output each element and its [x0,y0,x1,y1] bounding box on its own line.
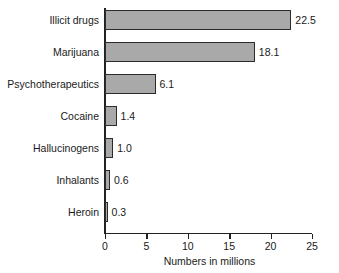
category-label: Heroin [68,201,99,223]
category-label: Cocaine [60,105,99,127]
bar-value-label: 1.4 [121,105,136,127]
bar-value-label: 0.6 [114,169,129,191]
tick-label: 20 [254,240,288,252]
value-axis-line [104,233,312,235]
tick-mark [312,234,313,239]
bar [105,202,108,222]
tick-mark [146,234,147,239]
tick-mark [188,234,189,239]
bar-row: Cocaine1.4 [0,105,339,127]
plot-area: Illicit drugs22.5Marijuana18.1Psychother… [0,0,339,273]
bar-value-label: 18.1 [259,41,279,63]
x-axis-title-text: Numbers in millions [164,255,256,267]
tick-mark [229,234,230,239]
bar-value-label: 1.0 [117,137,132,159]
bar-value-label: 0.3 [112,201,127,223]
bar [105,106,117,126]
tick-mark [105,234,106,239]
tick-label: 0 [88,240,122,252]
bar-row: Inhalants0.6 [0,169,339,191]
bar-chart: Illicit drugs22.5Marijuana18.1Psychother… [0,0,339,273]
tick-label: 15 [212,240,246,252]
tick-label: 25 [295,240,329,252]
category-label: Marijuana [53,41,99,63]
bar [105,170,110,190]
bar [105,42,255,62]
category-label: Hallucinogens [33,137,99,159]
category-label: Inhalants [56,169,99,191]
bar [105,138,113,158]
category-label: Illicit drugs [49,9,99,31]
bar [105,10,291,30]
bar-row: Hallucinogens1.0 [0,137,339,159]
bar-row: Heroin0.3 [0,201,339,223]
bar-row: Psychotherapeutics6.1 [0,73,339,95]
tick-label: 5 [129,240,163,252]
tick-mark [271,234,272,239]
bar [105,74,156,94]
bar-value-label: 6.1 [160,73,175,95]
tick-label: 10 [171,240,205,252]
category-label: Psychotherapeutics [7,73,99,95]
bar-value-label: 22.5 [295,9,315,31]
bar-row: Marijuana18.1 [0,41,339,63]
bar-row: Illicit drugs22.5 [0,9,339,31]
x-axis-title: Numbers in millions [0,255,339,267]
